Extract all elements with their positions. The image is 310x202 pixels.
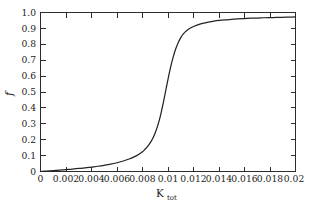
- x-tick-label: 0: [38, 173, 44, 184]
- y-tick-label: 0.4: [21, 102, 36, 113]
- x-axis-label-base: K: [156, 187, 164, 199]
- x-tick-label: 0.008: [129, 173, 155, 184]
- y-tick-labels: 0 0.1 0.2 0.3 0.4 0.5 0.6 0.7 0.8 0.9 1.…: [21, 7, 36, 177]
- x-axis-label-subscript: tot: [167, 194, 177, 202]
- figure-panel: 0 0.002 0.004 0.006 0.008 0.01 0.012 0.0…: [0, 0, 310, 202]
- y-tick-label: 0.7: [21, 54, 36, 65]
- x-tick-label: 0.018: [257, 173, 283, 184]
- x-tick-label: 0.006: [104, 173, 130, 184]
- x-tick-label: 0.01: [158, 173, 178, 184]
- y-tick-label: 0.2: [21, 134, 36, 145]
- x-tick-label: 0.014: [206, 173, 232, 184]
- y-tick-label: 0.1: [21, 150, 36, 161]
- y-tick-label: 0.9: [21, 23, 36, 34]
- x-tick-label: 0.004: [78, 173, 104, 184]
- x-tick-label: 0.016: [231, 173, 257, 184]
- x-tick-label: 0.02: [284, 173, 304, 184]
- x-tick-label: 0.002: [53, 173, 79, 184]
- y-tick-label: 1.0: [21, 7, 36, 18]
- y-tick-label: 0.3: [21, 118, 36, 129]
- x-tick-label: 0.012: [180, 173, 206, 184]
- x-tick-labels: 0 0.002 0.004 0.006 0.008 0.01 0.012 0.0…: [38, 173, 305, 184]
- y-tick-label: 0.6: [21, 70, 36, 81]
- y-tick-label: 0.5: [21, 86, 36, 97]
- y-tick-label: 0.8: [21, 38, 36, 49]
- y-tick-label: 0: [30, 166, 36, 177]
- sigmoid-plot: 0 0.002 0.004 0.006 0.008 0.01 0.012 0.0…: [0, 0, 310, 202]
